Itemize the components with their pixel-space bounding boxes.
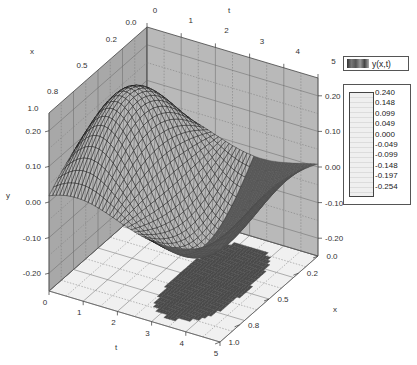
tick-label: 0.10 bbox=[25, 162, 41, 171]
tick-label: 4 bbox=[180, 339, 185, 348]
tick-label: 5 bbox=[331, 57, 336, 66]
tick-label: 2 bbox=[224, 26, 229, 35]
colorbar: 0.240 0.148 0.099 0.049 0.000 -0.049 -0.… bbox=[343, 84, 411, 205]
tick-label: 4 bbox=[296, 47, 301, 56]
colorbar-level: -0.099 bbox=[375, 150, 398, 160]
colorbar-level: 0.000 bbox=[375, 130, 398, 140]
tick-label: 0.00 bbox=[325, 163, 341, 172]
tick-label: 0.5 bbox=[277, 295, 289, 304]
colorbar-strip bbox=[349, 92, 374, 197]
tick-label: 0.20 bbox=[325, 92, 341, 101]
tick-label: 0 bbox=[153, 6, 158, 15]
tick-label: 0 bbox=[43, 298, 48, 307]
tick-label: 5 bbox=[214, 349, 219, 358]
tick-label: -0.10 bbox=[23, 234, 42, 243]
tick-label: 0.8 bbox=[47, 87, 59, 96]
tick-label: 3 bbox=[145, 329, 150, 338]
tick-label: 0.0 bbox=[326, 252, 338, 261]
legend-swatch bbox=[347, 59, 369, 68]
legend-label: y(x,t) bbox=[372, 59, 391, 69]
tick-label: 0.0 bbox=[125, 18, 137, 27]
tick-label: 1 bbox=[77, 308, 82, 317]
colorbar-level: -0.197 bbox=[375, 171, 398, 181]
tick-label: x bbox=[30, 47, 34, 56]
tick-label: 1.0 bbox=[228, 338, 240, 347]
tick-label: 0.8 bbox=[248, 321, 260, 330]
tick-label: 3 bbox=[260, 37, 265, 46]
tick-label: -0.20 bbox=[325, 234, 344, 243]
tick-label: t bbox=[228, 6, 231, 15]
legend: y(x,t) bbox=[343, 56, 409, 71]
tick-label: 0.5 bbox=[76, 61, 88, 70]
tick-label: t bbox=[115, 343, 118, 352]
tick-label: 1.0 bbox=[27, 104, 39, 113]
colorbar-level: -0.254 bbox=[375, 182, 398, 192]
tick-label: 0.2 bbox=[106, 35, 118, 44]
colorbar-level: 0.049 bbox=[375, 119, 398, 129]
tick-label: 0.20 bbox=[25, 127, 41, 136]
tick-label: y bbox=[6, 191, 10, 200]
colorbar-level: 0.099 bbox=[375, 109, 398, 119]
tick-label: 1 bbox=[188, 16, 193, 25]
tick-label: x bbox=[333, 305, 337, 314]
colorbar-level: -0.049 bbox=[375, 140, 398, 150]
tick-label: 0.10 bbox=[325, 127, 341, 136]
tick-label: -0.10 bbox=[325, 199, 344, 208]
colorbar-level: 0.148 bbox=[375, 98, 398, 108]
colorbar-level: 0.240 bbox=[375, 88, 398, 98]
tick-label: -0.20 bbox=[23, 269, 42, 278]
tick-label: 0.2 bbox=[307, 269, 319, 278]
colorbar-labels: 0.240 0.148 0.099 0.049 0.000 -0.049 -0.… bbox=[375, 88, 398, 192]
tick-label: 2 bbox=[111, 318, 116, 327]
tick-label: 0.00 bbox=[25, 198, 41, 207]
colorbar-level: -0.148 bbox=[375, 161, 398, 171]
